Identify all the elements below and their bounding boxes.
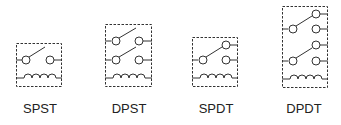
dpdt-label: DPDT	[274, 101, 334, 116]
dpst-label: DPST	[99, 101, 159, 116]
spst-label: SPST	[10, 101, 70, 116]
spst-symbol	[16, 44, 62, 87]
spdt-label: SPDT	[186, 101, 246, 116]
spdt-symbol	[192, 38, 238, 87]
dpdt-symbol	[282, 7, 328, 88]
dpst-symbol	[105, 25, 152, 87]
